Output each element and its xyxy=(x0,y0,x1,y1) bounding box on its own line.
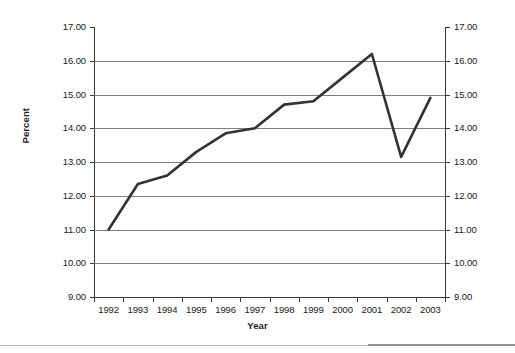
y-axis-left-tick-label: 16.00 xyxy=(63,56,86,66)
y-tick-left xyxy=(90,27,94,28)
x-tick xyxy=(182,298,183,302)
y-tick-left xyxy=(90,128,94,129)
x-axis-tick-label: 2000 xyxy=(328,304,357,315)
x-tick xyxy=(357,298,358,302)
y-tick-left xyxy=(90,61,94,62)
x-tick xyxy=(153,298,154,302)
x-axis-tick-label: 2003 xyxy=(416,304,445,315)
x-tick xyxy=(94,298,95,302)
y-tick-right xyxy=(446,61,450,62)
x-axis-tick-label: 1997 xyxy=(240,304,269,315)
gridline xyxy=(94,61,445,62)
y-axis-left-tick-label: 17.00 xyxy=(63,22,86,32)
line-chart: 17.0016.0015.0014.0013.0012.0011.0010.00… xyxy=(0,0,515,353)
x-tick xyxy=(445,298,446,302)
gridline xyxy=(94,263,445,264)
x-tick xyxy=(328,298,329,302)
y-axis-left-tick-label: 10.00 xyxy=(63,258,86,268)
y-axis-left-tick-label: 12.00 xyxy=(63,191,86,201)
y-tick-right xyxy=(446,263,450,264)
y-tick-right xyxy=(446,95,450,96)
x-axis-tick-label: 1998 xyxy=(270,304,299,315)
y-axis-left-tick-label: 14.00 xyxy=(63,123,86,133)
y-axis-right-tick-label: 9.00 xyxy=(454,292,472,302)
x-axis-title: Year xyxy=(0,320,515,331)
gridline xyxy=(94,128,445,129)
y-axis-left-tick-label: 13.00 xyxy=(63,157,86,167)
y-tick-right xyxy=(446,196,450,197)
gridline xyxy=(94,95,445,96)
gridline xyxy=(94,196,445,197)
y-tick-right xyxy=(446,230,450,231)
x-tick xyxy=(299,298,300,302)
x-axis-tick-label: 1995 xyxy=(182,304,211,315)
x-tick xyxy=(240,298,241,302)
x-axis-tick-label: 1992 xyxy=(94,304,123,315)
y-tick-left xyxy=(90,95,94,96)
x-axis-tick-label: 1996 xyxy=(211,304,240,315)
y-axis-title: Percent xyxy=(20,130,31,144)
y-axis-right-tick-label: 15.00 xyxy=(454,90,477,100)
y-tick-left xyxy=(90,263,94,264)
x-tick xyxy=(123,298,124,302)
y-axis-right-tick-label: 16.00 xyxy=(454,56,477,66)
y-tick-left xyxy=(90,230,94,231)
gridline xyxy=(94,230,445,231)
x-axis-tick-label: 2002 xyxy=(387,304,416,315)
x-axis-tick-label: 2001 xyxy=(357,304,386,315)
x-tick xyxy=(211,298,212,302)
x-tick xyxy=(416,298,417,302)
y-tick-right xyxy=(446,27,450,28)
x-axis-tick-label: 1994 xyxy=(153,304,182,315)
y-tick-left xyxy=(90,162,94,163)
x-tick xyxy=(270,298,271,302)
gridline xyxy=(94,162,445,163)
y-axis-left-tick-label: 15.00 xyxy=(63,90,86,100)
y-axis-right-tick-label: 14.00 xyxy=(454,123,477,133)
y-axis-left-tick-label: 11.00 xyxy=(63,225,86,235)
x-tick xyxy=(387,298,388,302)
y-tick-right xyxy=(446,162,450,163)
y-axis-right-tick-label: 17.00 xyxy=(454,22,477,32)
y-axis-right-tick-label: 13.00 xyxy=(454,157,477,167)
x-axis-tick-label: 1999 xyxy=(299,304,328,315)
y-axis-right-tick-label: 10.00 xyxy=(454,258,477,268)
y-tick-left xyxy=(90,196,94,197)
y-axis-right-tick-label: 12.00 xyxy=(454,191,477,201)
x-axis-tick-label: 1993 xyxy=(123,304,152,315)
y-tick-right xyxy=(446,128,450,129)
y-tick-right xyxy=(446,297,450,298)
y-axis-right-tick-label: 11.00 xyxy=(454,225,477,235)
y-axis-left-tick-label: 9.00 xyxy=(68,292,86,302)
scan-edge-line-2 xyxy=(368,344,515,346)
